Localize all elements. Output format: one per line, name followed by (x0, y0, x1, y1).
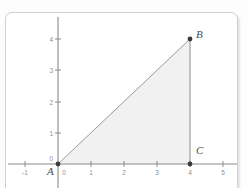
coordinate-plane: -1 0 1 2 3 4 5 0 1 2 3 4 A B C (6, 13, 238, 188)
y-tick-label-1: 1 (44, 130, 53, 137)
point-label-A: A (47, 165, 54, 177)
plot-svg (6, 13, 238, 188)
y-tick-label-4: 4 (44, 36, 53, 43)
x-tick-label-1: 1 (89, 169, 93, 176)
x-tick-label--1: -1 (22, 169, 28, 176)
y-tick-label-2: 2 (44, 99, 53, 106)
figure-card: -1 0 1 2 3 4 5 0 1 2 3 4 A B C (5, 12, 238, 188)
x-tick-label-2: 2 (122, 169, 126, 176)
x-tick-label-3: 3 (155, 169, 159, 176)
screenshot-root: ___ (0, 0, 248, 188)
x-tick-label-5: 5 (221, 169, 225, 176)
y-tick-label-3: 3 (44, 67, 53, 74)
point-label-C: C (196, 144, 203, 156)
x-tick-label-0: 0 (62, 169, 66, 176)
y-tick-label-0: 0 (44, 155, 53, 162)
vertex-dot-B (188, 37, 193, 42)
x-tick-label-4: 4 (188, 169, 192, 176)
clipped-header-text: ___ (27, 0, 40, 1)
vertex-dot-A (56, 162, 61, 167)
point-label-B: B (196, 28, 203, 40)
vertex-dot-C (188, 162, 193, 167)
